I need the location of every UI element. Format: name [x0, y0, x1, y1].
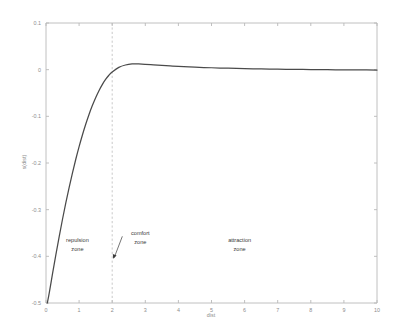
x-tick-label: 6 — [243, 307, 246, 313]
x-tick-label: 2 — [111, 307, 114, 313]
y-tick-label: -0.2 — [32, 160, 41, 166]
attraction-zone-label-line2: zone — [234, 246, 246, 252]
x-tick-label: 8 — [309, 307, 312, 313]
x-tick-label: 7 — [276, 307, 279, 313]
attraction-zone-label-line1: attraction — [228, 237, 251, 243]
comfort-zone-label-line1: comfort — [131, 230, 150, 236]
plot-background — [46, 23, 377, 303]
x-axis-label: dist — [207, 312, 216, 318]
y-tick-label: 0 — [38, 67, 41, 73]
x-tick-label: 4 — [177, 307, 180, 313]
y-tick-label: -0.4 — [32, 253, 41, 259]
x-tick-label: 0 — [45, 307, 48, 313]
plot-figure: 012345678910 0.10-0.1-0.2-0.3-0.4-0.5 re… — [0, 0, 399, 329]
x-tick-label: 3 — [144, 307, 147, 313]
x-tick-label: 1 — [78, 307, 81, 313]
comfort-zone-label-line2: zone — [134, 239, 146, 245]
repulsion-zone-label-line2: zone — [71, 246, 83, 252]
x-tick-label: 9 — [342, 307, 345, 313]
x-tick-label: 10 — [374, 307, 380, 313]
y-tick-label: -0.1 — [32, 113, 41, 119]
repulsion-zone-label-line1: repulsion — [66, 237, 89, 243]
y-tick-label: 0.1 — [34, 20, 42, 26]
y-axis-label: s(dist) — [21, 154, 27, 169]
chart-svg: 012345678910 0.10-0.1-0.2-0.3-0.4-0.5 re… — [0, 0, 399, 329]
y-tick-label: -0.5 — [32, 300, 41, 306]
y-tick-label: -0.3 — [32, 207, 41, 213]
